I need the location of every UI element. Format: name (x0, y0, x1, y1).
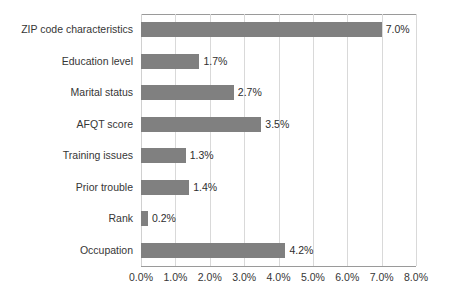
x-tick-label: 8.0% (396, 270, 436, 284)
bar-row: Occupation4.2% (0, 235, 452, 267)
category-label: Training issues (0, 148, 133, 163)
category-label: Prior trouble (0, 180, 133, 195)
category-label: ZIP code characteristics (0, 22, 133, 37)
bar-value-label: 2.7% (238, 85, 262, 100)
bar (141, 54, 199, 69)
bar-chart: ZIP code characteristics7.0%Education le… (0, 0, 452, 303)
bar (141, 180, 189, 195)
bar-value-label: 1.7% (203, 54, 227, 69)
bar-value-label: 7.0% (386, 22, 410, 37)
bar (141, 148, 186, 163)
bar-row: Training issues1.3% (0, 140, 452, 172)
bar (141, 22, 382, 37)
bar-row: Prior trouble1.4% (0, 172, 452, 204)
bar-value-label: 0.2% (152, 211, 176, 226)
bar-row: ZIP code characteristics7.0% (0, 14, 452, 46)
bar-row: Marital status2.7% (0, 77, 452, 109)
bar-row: Rank0.2% (0, 203, 452, 235)
bar (141, 117, 261, 132)
bar-value-label: 3.5% (265, 117, 289, 132)
bar (141, 243, 285, 258)
category-label: AFQT score (0, 117, 133, 132)
bar-value-label: 1.3% (190, 148, 214, 163)
bar (141, 85, 234, 100)
bar-value-label: 1.4% (193, 180, 217, 195)
bar-value-label: 4.2% (289, 243, 313, 258)
category-label: Rank (0, 211, 133, 226)
bar-row: Education level1.7% (0, 46, 452, 78)
bar (141, 211, 148, 226)
x-axis-line (141, 266, 416, 267)
category-label: Education level (0, 54, 133, 69)
category-label: Occupation (0, 243, 133, 258)
category-label: Marital status (0, 85, 133, 100)
bar-row: AFQT score3.5% (0, 109, 452, 141)
